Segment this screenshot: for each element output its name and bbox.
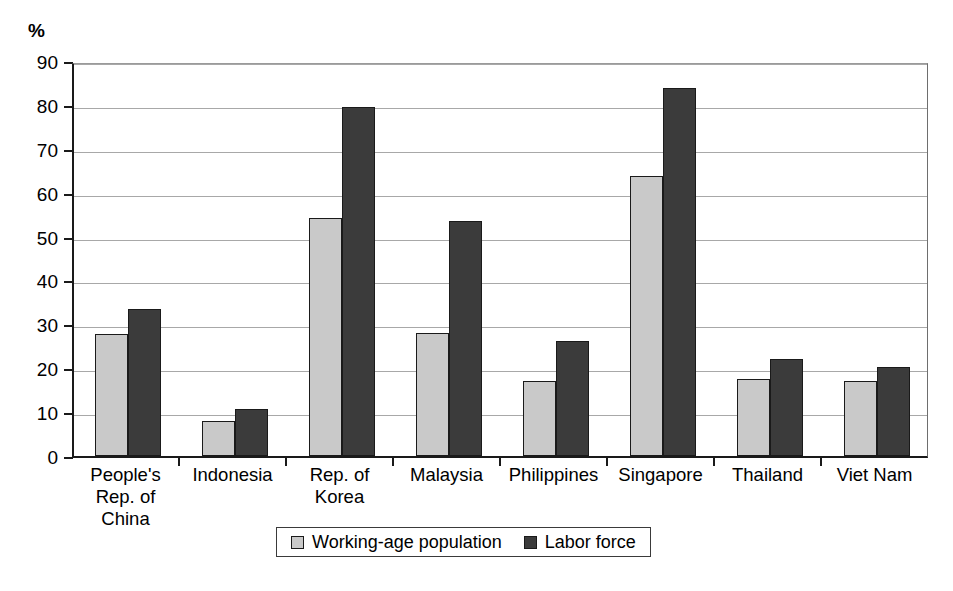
bar — [556, 341, 589, 456]
gridline — [74, 327, 927, 328]
bar — [416, 333, 449, 456]
bar — [309, 218, 342, 456]
gridline — [74, 240, 927, 241]
gridline — [74, 196, 927, 197]
legend-entry: Labor force — [524, 533, 636, 551]
y-axis-tick-marks — [0, 63, 80, 458]
chart-legend: Working-age populationLabor force — [276, 527, 651, 557]
gridline — [74, 152, 927, 153]
legend-label: Working-age population — [312, 533, 502, 551]
gridline — [74, 283, 927, 284]
legend-swatch — [291, 536, 304, 549]
x-axis-category-label-line: Korea — [277, 486, 402, 508]
bar — [95, 334, 128, 456]
gridline — [74, 64, 927, 65]
legend-label: Labor force — [545, 533, 636, 551]
bar — [128, 309, 161, 456]
bar-chart-figure: % 9080706050403020100 People'sRep. ofChi… — [0, 0, 953, 591]
bar — [663, 88, 696, 456]
x-axis-category-label-line: Rep. of — [63, 486, 188, 508]
x-axis-category-labels: People'sRep. ofChinaIndonesiaRep. ofKore… — [72, 464, 928, 526]
bar — [770, 359, 803, 456]
gridline — [74, 108, 927, 109]
bar — [630, 176, 663, 456]
x-axis-category-label: Viet Nam — [812, 464, 937, 486]
x-axis-category-label-line: Viet Nam — [812, 464, 937, 486]
bar — [523, 381, 556, 456]
y-axis-unit-label: % — [28, 20, 44, 42]
bar — [737, 379, 770, 456]
bar — [449, 221, 482, 456]
plot-area — [72, 63, 928, 458]
x-axis-category-label-line: China — [63, 508, 188, 530]
bar — [202, 421, 235, 456]
bar — [342, 107, 375, 456]
legend-entry: Working-age population — [291, 533, 502, 551]
bar — [877, 367, 910, 456]
bar — [235, 409, 268, 456]
legend-swatch — [524, 536, 537, 549]
bar — [844, 381, 877, 456]
